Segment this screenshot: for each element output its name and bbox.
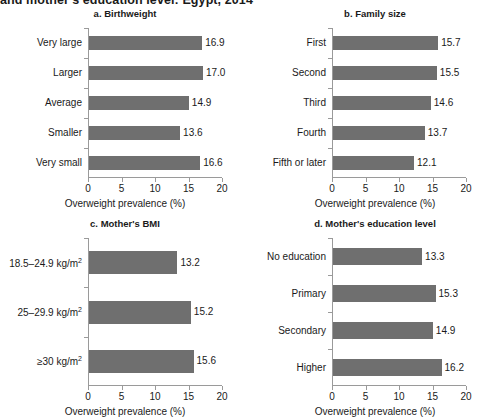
bar-value-label-b-2: 14.6 [434,97,453,108]
x-tick-b-2 [399,178,400,182]
y-tick-b-2 [328,88,332,89]
y-tick-b-4 [328,148,332,149]
y-tick-a-1 [84,58,88,59]
bar-c-0 [89,251,177,274]
x-tick-a-3 [189,178,190,182]
x-tick-label-d-2: 10 [393,391,404,402]
x-tick-label-c-0: 0 [85,391,91,402]
category-label-b-2: Third [303,97,326,108]
category-label-d-3: Higher [297,362,326,373]
y-tick-d-2 [328,312,332,313]
chart-panel-d: d. Mother's education level05101520Overw… [250,218,500,419]
bar-value-label-a-1: 17.0 [206,67,225,78]
x-tick-c-1 [122,386,123,390]
x-axis-title-d: Overweight prevalence (%) [250,406,500,417]
x-tick-a-4 [222,178,223,182]
x-tick-label-a-1: 5 [119,183,125,194]
x-tick-d-3 [433,386,434,390]
chart-panel-b: b. Family size05101520Overweight prevale… [250,8,500,213]
x-tick-label-c-3: 15 [183,391,194,402]
x-axis-title-c: Overweight prevalence (%) [0,406,250,417]
x-tick-label-a-3: 15 [183,183,194,194]
bar-c-1 [89,301,191,324]
panel-title-c: c. Mother's BMI [0,218,250,229]
x-tick-b-1 [366,178,367,182]
y-tick-c-1 [84,287,88,288]
bar-a-0 [89,36,202,50]
x-tick-b-4 [466,178,467,182]
x-tick-label-a-0: 0 [85,183,91,194]
x-tick-label-b-1: 5 [363,183,369,194]
category-label-c-2: ≥30 kg/m2 [37,355,82,367]
x-tick-d-1 [366,386,367,390]
bar-b-4 [333,156,414,170]
x-tick-label-a-2: 10 [149,183,160,194]
bar-value-label-a-2: 14.9 [192,97,211,108]
x-tick-c-2 [155,386,156,390]
bar-a-1 [89,66,203,80]
bar-value-label-b-1: 15.5 [440,67,459,78]
category-label-a-1: Larger [53,67,82,78]
y-tick-a-top [84,28,88,29]
y-tick-a-2 [84,88,88,89]
bar-b-0 [333,36,438,50]
x-tick-label-b-3: 15 [427,183,438,194]
x-tick-label-d-3: 15 [427,391,438,402]
category-label-b-0: First [307,37,326,48]
x-tick-d-2 [399,386,400,390]
figure-root: and mother's education level: Egypt, 201… [0,0,500,419]
category-label-c-1: 25–29.9 kg/m2 [17,306,82,318]
x-tick-label-b-2: 10 [393,183,404,194]
category-label-a-3: Smaller [48,127,82,138]
category-label-b-4: Fifth or later [273,157,326,168]
y-tick-a-4 [84,148,88,149]
bar-a-2 [89,96,189,110]
category-label-c-0: 18.5–24.9 kg/m2 [9,257,82,269]
x-tick-c-0 [88,386,89,390]
x-tick-a-2 [155,178,156,182]
bar-d-2 [333,322,433,339]
bar-value-label-a-0: 16.9 [205,37,224,48]
bar-value-label-c-1: 15.2 [194,306,213,317]
category-label-b-3: Fourth [297,127,326,138]
chart-panel-a: a. Birthweight05101520Overweight prevale… [0,8,250,213]
x-tick-label-b-0: 0 [329,183,335,194]
panel-title-a: a. Birthweight [0,8,250,19]
x-tick-label-c-4: 20 [216,391,227,402]
category-label-a-2: Average [45,97,82,108]
x-tick-label-a-4: 20 [216,183,227,194]
bar-b-2 [333,96,431,110]
y-tick-b-3 [328,118,332,119]
category-label-d-1: Primary [292,288,326,299]
y-tick-d-top [328,238,332,239]
x-tick-d-0 [332,386,333,390]
bar-value-label-a-3: 13.6 [183,127,202,138]
category-label-b-1: Second [292,67,326,78]
x-axis-title-a: Overweight prevalence (%) [0,198,250,209]
bar-value-label-d-0: 13.3 [425,251,444,262]
y-tick-a-3 [84,118,88,119]
x-tick-b-3 [433,178,434,182]
x-tick-c-3 [189,386,190,390]
chart-panel-c: c. Mother's BMI05101520Overweight preval… [0,218,250,419]
category-label-a-0: Very large [37,37,82,48]
category-label-a-4: Very small [36,157,82,168]
bar-value-label-d-2: 14.9 [436,325,455,336]
bar-value-label-c-2: 15.6 [197,355,216,366]
x-tick-label-b-4: 20 [460,183,471,194]
bar-b-3 [333,126,425,140]
bar-value-label-d-3: 16.2 [445,362,464,373]
y-tick-d-3 [328,349,332,350]
y-tick-b-top [328,28,332,29]
x-tick-label-d-1: 5 [363,391,369,402]
x-tick-d-4 [466,386,467,390]
x-axis-title-b: Overweight prevalence (%) [250,198,500,209]
y-tick-d-1 [328,275,332,276]
category-label-d-2: Secondary [278,325,326,336]
x-tick-label-c-1: 5 [119,391,125,402]
bar-d-1 [333,285,436,302]
bar-d-0 [333,248,422,265]
bar-d-3 [333,359,442,376]
category-label-d-0: No education [267,251,326,262]
x-tick-label-c-2: 10 [149,391,160,402]
